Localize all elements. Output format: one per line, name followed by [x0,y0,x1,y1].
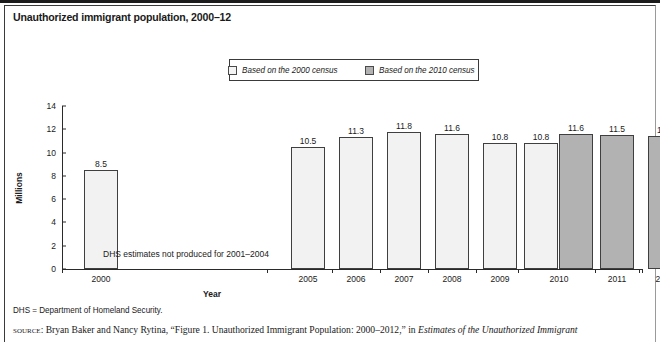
x-axis-line [62,269,643,270]
bar-2006-light: 11.3 [339,137,373,269]
x-axis-tick-mark [518,269,519,273]
x-axis-tick-mark [380,269,381,273]
bar-value-label: 11.3 [348,126,364,136]
top-rule [0,0,660,3]
y-axis-title-text: Millions [14,172,24,204]
legend-swatch-icon-dark [365,66,374,75]
y-axis-tick-label: 6 [32,194,62,204]
y-axis-tick-label: 4 [32,217,62,227]
x-axis-tick-mark [476,269,477,273]
y-axis-tick-label: 2 [32,241,62,251]
x-axis-tick-mark [267,269,268,273]
bar-value-label: 11.5 [609,124,625,134]
x-axis-title: Year [62,289,362,299]
source-prefix: source [13,324,41,335]
x-axis-tick-mark [62,269,63,273]
y-axis-tick-label: 0 [32,264,62,274]
page-title: Unauthorized immigrant population, 2000–… [13,11,231,23]
bar-2012-dark: 11.4 [648,136,660,269]
y-axis-title: Millions [12,106,26,270]
bar-value-label: 10.5 [300,136,317,146]
bar-2010-light: 10.8 [524,143,558,269]
y-axis-tick-mark [62,245,66,246]
x-axis-tick-label-2009: 2009 [491,274,510,284]
x-axis-tick-mark [639,269,640,273]
bar-value-label: 10.8 [492,132,509,142]
chart-annotation: DHS estimates not produced for 2001–2004 [103,249,269,259]
chart-legend: Based on the 2000 census Based on the 20… [229,59,479,81]
bar-2005-light: 10.5 [291,147,325,269]
legend-label-2000-census: Based on the 2000 census [242,65,338,75]
y-axis-tick-label: 8 [32,171,62,181]
x-axis-tick-label-2000: 2000 [92,274,111,284]
y-axis-tick-mark [62,222,66,223]
y-axis-tick-label: 14 [32,101,62,111]
bar-value-label: 11.6 [568,123,584,133]
figure-page: Unauthorized immigrant population, 2000–… [0,0,660,342]
bar-value-label: 8.5 [95,159,107,169]
source-line: source: Bryan Baker and Nancy Rytina, “F… [13,324,577,335]
y-axis-tick-label: 10 [32,148,62,158]
x-axis-tick-label-2011: 2011 [608,274,626,284]
bar-2010-dark: 11.6 [559,134,593,269]
x-axis-tick-label-2006: 2006 [347,274,366,284]
legend-item-2010-census: Based on the 2010 census [365,65,480,75]
source-title-italic: Estimates of the Unauthorized Immigrant [418,324,577,335]
footnote-abbreviation: DHS = Department of Homeland Security. [13,305,163,315]
x-axis-tick-mark [595,269,596,273]
y-axis-tick-mark [62,106,66,107]
bar-2007-light: 11.8 [387,132,421,269]
bar-2008-light: 11.6 [435,134,469,269]
y-axis-tick-mark [62,199,66,200]
x-axis-tick-label-2007: 2007 [395,274,414,284]
y-axis-tick-mark [62,129,66,130]
source-text: Bryan Baker and Nancy Rytina, “Figure 1.… [46,324,418,335]
y-axis-tick-mark [62,175,66,176]
x-axis-tick-label-2010: 2010 [550,274,569,284]
legend-item-2000-census: Based on the 2000 census [228,65,343,75]
plot-area: 024681012148.510.511.311.811.610.810.811… [62,106,642,269]
bar-value-label: 11.6 [444,123,460,133]
x-axis-tick-mark [428,269,429,273]
legend-label-2010-census: Based on the 2010 census [379,65,475,75]
bar-value-label: 10.8 [533,132,550,142]
x-axis-tick-mark [332,269,333,273]
x-axis-tick-label-2008: 2008 [443,274,462,284]
x-axis-tick-mark [642,269,643,273]
legend-swatch-icon-light [228,66,237,75]
y-axis-tick-label: 12 [32,124,62,134]
y-axis-tick-mark [62,152,66,153]
x-axis-tick-label-2012: 2012 [656,274,660,284]
x-axis-tick-label-2005: 2005 [299,274,318,284]
bar-2011-dark: 11.5 [600,135,634,269]
bar-value-label: 11.8 [396,121,412,131]
bar-2009-light: 10.8 [483,143,517,269]
